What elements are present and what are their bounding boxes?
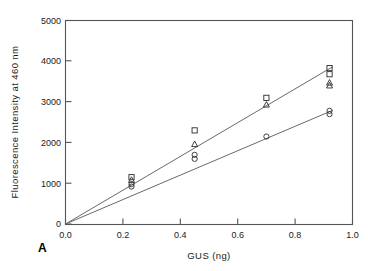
panel-label-a: A	[38, 241, 47, 255]
y-tick-label-3000: 3000	[41, 97, 61, 107]
x-tick-label-0.2: 0.2	[117, 230, 130, 240]
x-tick-label-0.8: 0.8	[289, 230, 302, 240]
y-tick-label-2000: 2000	[41, 138, 61, 148]
y-axis-title: Fluorescence Intensity at 460 nm	[9, 46, 20, 199]
y-tick-label-4000: 4000	[41, 56, 61, 66]
y-tick-label-0: 0	[56, 219, 61, 229]
x-tick-label-0.0: 0.0	[59, 230, 72, 240]
x-axis-title: GUS (ng)	[187, 250, 230, 261]
y-tick-label-5000: 5000	[41, 16, 61, 26]
fluorescence-gus-scatter-chart: 0 1000 2000 3000 4000 5000 0.0 0.2 0.4 0…	[0, 0, 368, 271]
x-tick-label-1.0: 1.0	[346, 230, 359, 240]
y-tick-label-1000: 1000	[41, 179, 61, 189]
x-tick-label-0.4: 0.4	[174, 230, 187, 240]
x-tick-label-0.6: 0.6	[231, 230, 244, 240]
